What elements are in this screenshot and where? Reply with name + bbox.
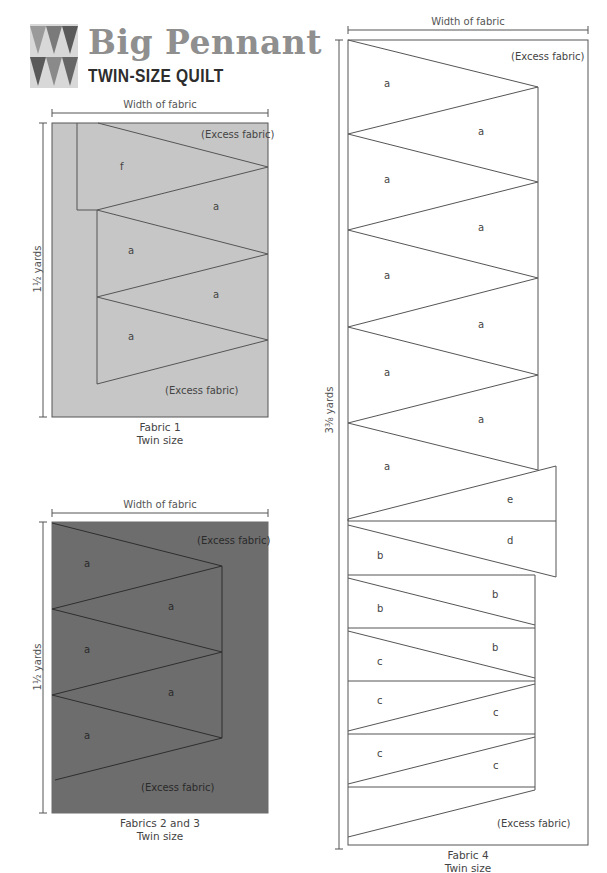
svg-text:a: a	[478, 319, 484, 330]
svg-text:(Excess fabric): (Excess fabric)	[511, 51, 585, 62]
svg-text:(Excess fabric): (Excess fabric)	[141, 782, 215, 793]
svg-text:a: a	[384, 367, 390, 378]
svg-text:c: c	[493, 760, 499, 771]
svg-text:b: b	[492, 589, 498, 600]
fabric1-caption-name: Fabric 1	[110, 421, 210, 434]
svg-text:a: a	[213, 289, 219, 300]
fabric4-caption: Fabric 4 Twin size	[418, 849, 518, 873]
svg-text:a: a	[168, 687, 174, 698]
fabric1-diagram	[39, 109, 268, 417]
svg-text:f: f	[120, 161, 124, 172]
fabric4-caption-size: Twin size	[418, 862, 518, 873]
svg-text:a: a	[478, 222, 484, 233]
fabric23-caption: Fabrics 2 and 3 Twin size	[100, 817, 220, 843]
svg-text:c: c	[377, 695, 383, 706]
svg-text:a: a	[384, 270, 390, 281]
svg-text:a: a	[213, 201, 219, 212]
fabric23-length-label: 1½ yards	[33, 637, 43, 697]
svg-text:a: a	[84, 644, 90, 655]
fabric4-caption-name: Fabric 4	[418, 849, 518, 862]
svg-text:a: a	[168, 601, 174, 612]
svg-text:(Excess fabric): (Excess fabric)	[197, 535, 271, 546]
svg-text:(Excess fabric): (Excess fabric)	[165, 385, 239, 396]
svg-text:d: d	[507, 535, 513, 546]
svg-text:a: a	[84, 558, 90, 569]
fabric4-width-label: Width of fabric	[428, 17, 508, 27]
svg-text:b: b	[377, 550, 383, 561]
svg-text:a: a	[478, 126, 484, 137]
svg-text:c: c	[377, 656, 383, 667]
svg-text:c: c	[377, 748, 383, 759]
svg-text:a: a	[384, 78, 390, 89]
fabric23-caption-size: Twin size	[100, 830, 220, 843]
fabric1-length-label: 1½ yards	[33, 239, 43, 299]
svg-text:a: a	[128, 245, 134, 256]
cutting-diagrams: f a a a a (Excess fabric) (Excess fabric…	[0, 0, 607, 873]
svg-text:c: c	[493, 707, 499, 718]
svg-text:a: a	[84, 730, 90, 741]
fabric4-diagram	[335, 26, 588, 849]
fabric1-width-label: Width of fabric	[120, 100, 200, 110]
svg-text:(Excess fabric): (Excess fabric)	[201, 129, 275, 140]
svg-text:a: a	[478, 414, 484, 425]
fabric4-length-label: 3⅜ yards	[325, 380, 335, 440]
fabric1-caption: Fabric 1 Twin size	[110, 421, 210, 447]
fabric23-width-label: Width of fabric	[120, 500, 200, 510]
svg-text:b: b	[377, 603, 383, 614]
fabric1-caption-size: Twin size	[110, 434, 210, 447]
svg-text:(Excess fabric): (Excess fabric)	[497, 818, 571, 829]
fabric23-caption-name: Fabrics 2 and 3	[100, 817, 220, 830]
svg-text:e: e	[507, 494, 513, 505]
fabric23-diagram	[39, 509, 268, 813]
svg-text:a: a	[128, 331, 134, 342]
svg-text:a: a	[384, 461, 390, 472]
svg-text:b: b	[492, 642, 498, 653]
svg-text:a: a	[384, 174, 390, 185]
